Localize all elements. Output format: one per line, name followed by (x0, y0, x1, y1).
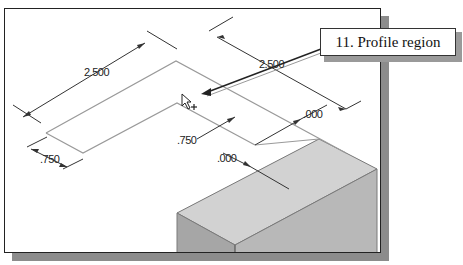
arrow-select-cursor-icon (181, 93, 201, 113)
dimension-label-right-offset[interactable]: .000 (303, 109, 322, 120)
callout-leader-line (201, 49, 321, 96)
dimension-label-top-right-length[interactable]: 2.500 (259, 59, 284, 70)
dimension-label-top-left-length[interactable]: 2.500 (84, 67, 109, 78)
step-callout-label: 11. Profile region (336, 34, 441, 51)
dimension-label-lower-offset[interactable]: .000 (217, 153, 236, 164)
solid-block[interactable] (177, 139, 377, 252)
step-callout-box: 11. Profile region (320, 28, 456, 56)
dimension-label-left-width[interactable]: .750 (40, 154, 59, 165)
dimension-label-middle-width[interactable]: .750 (177, 135, 196, 146)
